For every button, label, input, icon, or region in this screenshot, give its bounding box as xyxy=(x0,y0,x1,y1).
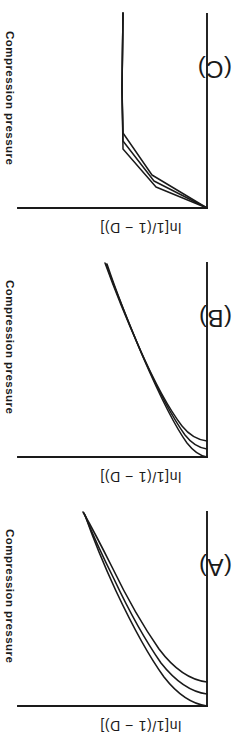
axes-a xyxy=(18,512,207,706)
curves-c xyxy=(122,13,207,208)
plot-area-b xyxy=(0,249,244,498)
x-axis-label-b: ln[1/(1 − D)] xyxy=(37,469,244,485)
curve-c-2 xyxy=(122,13,207,208)
curve-b-1 xyxy=(107,264,207,457)
curve-a-3 xyxy=(83,512,207,682)
plot-area-a xyxy=(0,498,244,747)
panel-c: (C) ln[1/(1 − D)] Compression pressure xyxy=(0,0,244,249)
curve-a-1 xyxy=(85,515,207,706)
y-axis-label-c: Compression pressure xyxy=(4,31,16,165)
curve-c-3 xyxy=(122,13,207,208)
curves-a xyxy=(83,512,207,706)
curve-b-2 xyxy=(106,264,207,449)
curves-b xyxy=(105,263,207,457)
axes-c xyxy=(18,14,207,208)
panel-a: (A) ln[1/(1 − D)] Compression pressure xyxy=(0,498,244,747)
y-axis-label-a: Compression pressure xyxy=(4,529,16,663)
figure-sheet: (A) ln[1/(1 − D)] Compression pressure (… xyxy=(0,0,244,747)
plot-area-c xyxy=(0,0,244,249)
plot-svg-a xyxy=(0,498,244,747)
plot-svg-b xyxy=(0,249,244,498)
panel-letter-c: (C) xyxy=(197,57,232,81)
curve-c-1 xyxy=(122,13,207,208)
y-axis-label-b: Compression pressure xyxy=(4,280,16,414)
plot-svg-c xyxy=(0,0,244,249)
curve-b-3 xyxy=(105,263,207,441)
curve-a-2 xyxy=(84,513,207,694)
panel-b: (B) ln[1/(1 − D)] Compression pressure xyxy=(0,249,244,498)
panel-letter-a: (A) xyxy=(199,555,233,579)
x-axis-label-c: ln[1/(1 − D)] xyxy=(37,220,244,236)
x-axis-label-a: ln[1/(1 − D)] xyxy=(37,718,244,734)
axes-b xyxy=(18,263,207,457)
panel-letter-b: (B) xyxy=(199,306,233,330)
